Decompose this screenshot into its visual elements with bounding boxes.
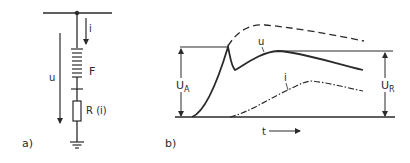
panel-b-label: b): [165, 137, 176, 150]
figure: i u F R (i) a) u i U A U R t b): [0, 0, 410, 163]
resistor-label: R (i): [86, 105, 107, 116]
u-leader-line: [262, 47, 264, 52]
svg-text:A: A: [184, 85, 190, 94]
svg-text:U: U: [176, 79, 184, 92]
svg-text:U: U: [381, 79, 389, 92]
time-label: t: [262, 126, 266, 137]
voltage-curve-label: u: [258, 36, 264, 47]
voltage-label: u: [49, 72, 55, 83]
current-label: i: [89, 23, 92, 34]
svg-text:R: R: [389, 85, 395, 94]
arrester-label: F: [89, 65, 95, 78]
ground-icon: [70, 142, 84, 148]
voltage-curve: [192, 47, 363, 117]
i-leader-line: [286, 83, 288, 90]
panel-a-label: a): [22, 137, 33, 150]
ur-label: U R: [381, 79, 395, 94]
ua-label: U A: [176, 79, 190, 94]
resistor-icon: [73, 101, 81, 121]
current-curve: [230, 81, 363, 117]
current-curve-label: i: [284, 72, 287, 83]
prospective-voltage-curve: [228, 25, 364, 46]
